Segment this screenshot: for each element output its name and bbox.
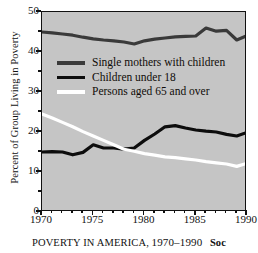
legend-item-single-mothers: Single mothers with children <box>57 56 225 70</box>
legend-item-children: Children under 18 <box>57 71 225 85</box>
legend-label-single-mothers: Single mothers with children <box>92 57 225 69</box>
legend-item-seniors: Persons aged 65 and over <box>57 85 225 99</box>
legend-swatch-seniors <box>57 90 85 94</box>
caption-label: POVERTY IN AMERICA, <box>32 237 149 248</box>
series-lines <box>42 12 246 211</box>
legend-swatch-children <box>57 76 85 80</box>
caption-years: 1970–1990 <box>151 236 202 248</box>
series-line <box>42 28 246 44</box>
legend-swatch-single-mothers <box>57 61 85 65</box>
series-line <box>42 126 246 155</box>
legend-label-children: Children under 18 <box>92 72 176 84</box>
x-axis-label: 1975 <box>72 214 112 225</box>
x-axis-label: 1985 <box>175 214 215 225</box>
x-axis-label: 1990 <box>226 214 258 225</box>
plot-area <box>41 11 246 211</box>
x-axis-label: 1970 <box>21 214 61 225</box>
poverty-chart-figure: Percent of Group Living in Poverty 01020… <box>0 0 258 253</box>
y-axis-title: Percent of Group Living in Poverty <box>9 10 20 206</box>
figure-caption: POVERTY IN AMERICA, 1970–1990 Soc <box>0 236 258 248</box>
legend-label-seniors: Persons aged 65 and over <box>92 86 210 98</box>
chart-legend: Single mothers with children Children un… <box>57 56 225 100</box>
caption-tail: Soc <box>210 237 226 248</box>
x-axis-label: 1980 <box>124 214 164 225</box>
